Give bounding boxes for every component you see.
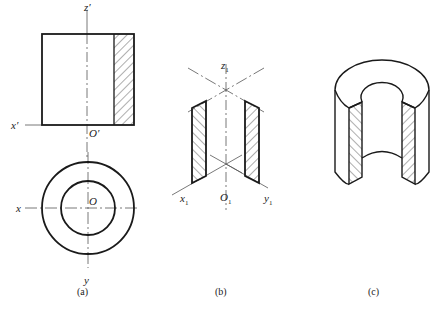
axis-label-y: y <box>84 275 89 286</box>
front-view <box>25 10 134 160</box>
top-view <box>25 152 140 268</box>
axis-label-z1: z1 <box>221 60 229 74</box>
caption-b: (b) <box>215 287 227 297</box>
caption-c: (c) <box>368 287 379 297</box>
origin-label-o-prime: O′ <box>89 128 99 139</box>
axis-label-y1: y1 <box>264 193 272 207</box>
figure-canvas: z′ x′ O′ x O y (a) z1 x1 O1 y1 (b) (c) <box>0 0 436 309</box>
axis-label-x-prime: x′ <box>11 120 18 131</box>
axis-label-x1: x1 <box>180 193 188 207</box>
drawing <box>0 0 436 309</box>
axonometric-section <box>172 64 268 210</box>
axis-label-x: x <box>16 203 21 214</box>
isometric-cutaway <box>335 60 429 184</box>
origin-label-o1: O1 <box>220 192 231 206</box>
axis-label-z-prime: z′ <box>84 2 91 13</box>
caption-a: (a) <box>77 287 88 297</box>
origin-label-o: O <box>89 196 97 207</box>
